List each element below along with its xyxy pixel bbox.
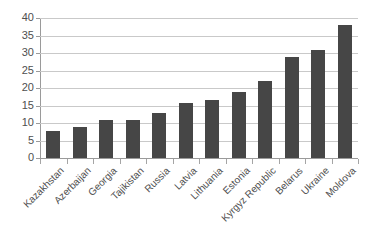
bars-series — [40, 18, 358, 158]
x-axis-category-label-wrap: Georgia — [111, 165, 119, 173]
y-axis-tick-label: 40 — [2, 12, 34, 23]
bar-chart: 0510152025303540 KazakhstanAzerbaijanGeo… — [0, 0, 365, 241]
bar — [46, 131, 60, 158]
bar-slot — [199, 18, 226, 158]
x-axis-category-label-wrap: Azerbaijan — [85, 165, 93, 173]
x-axis-category-label-wrap: Russia — [164, 165, 172, 173]
bar-slot — [226, 18, 253, 158]
x-axis-category-label-wrap: Kyrgyz Republic — [270, 165, 278, 173]
y-axis-tick-label: 25 — [2, 65, 34, 76]
bar-slot — [67, 18, 94, 158]
bar-slot — [146, 18, 173, 158]
x-axis-tickmark — [173, 159, 174, 164]
x-axis-category-label-wrap: Moldova — [350, 165, 358, 173]
bar — [126, 120, 140, 158]
bar — [99, 120, 113, 158]
bar — [232, 92, 246, 158]
y-axis-tick-label: 10 — [2, 117, 34, 128]
y-axis-tick-labels: 0510152025303540 — [0, 18, 34, 158]
bar — [338, 25, 352, 158]
bar-slot — [120, 18, 147, 158]
bar — [258, 81, 272, 158]
bar — [73, 127, 87, 158]
bar — [179, 103, 193, 158]
bar — [205, 100, 219, 158]
x-axis-category-label-wrap: Latvia — [191, 165, 199, 173]
x-axis-tickmark — [93, 159, 94, 164]
x-axis-tickmark — [67, 159, 68, 164]
y-axis-tick-label: 5 — [2, 135, 34, 146]
bar-slot — [40, 18, 67, 158]
x-axis-tickmark — [40, 159, 41, 164]
y-axis-tick-label: 20 — [2, 82, 34, 93]
bar-slot — [279, 18, 306, 158]
x-axis-tickmark — [226, 159, 227, 164]
x-axis-tickmark — [332, 159, 333, 164]
x-axis-category-label-wrap: Belarus — [297, 165, 305, 173]
bar — [311, 50, 325, 159]
x-axis-category-label-wrap: Tajikistan — [138, 165, 146, 173]
bar-slot — [332, 18, 359, 158]
x-axis-category-labels: KazakhstanAzerbaijanGeorgiaTajikistanRus… — [40, 165, 358, 241]
y-axis-tick-label: 30 — [2, 47, 34, 58]
bar-slot — [93, 18, 120, 158]
x-axis-category-label-wrap: Kazakhstan — [58, 165, 66, 173]
bar — [285, 57, 299, 159]
x-axis-tickmark — [358, 159, 359, 164]
x-axis-tickmark — [252, 159, 253, 164]
x-axis-category-label-wrap: Ukraine — [323, 165, 331, 173]
x-axis-tickmark — [120, 159, 121, 164]
y-axis-tick-label: 0 — [2, 152, 34, 163]
x-axis-category-label-wrap: Lithuania — [217, 165, 225, 173]
bar — [152, 113, 166, 158]
x-axis-tickmark — [279, 159, 280, 164]
x-axis-tickmark — [146, 159, 147, 164]
bar-slot — [305, 18, 332, 158]
x-axis-tickmark — [199, 159, 200, 164]
y-axis-tick-label: 15 — [2, 100, 34, 111]
x-axis-category-label: Belarus — [273, 165, 305, 197]
bar-slot — [252, 18, 279, 158]
x-axis-category-label-wrap: Estonia — [244, 165, 252, 173]
y-axis-tick-label: 35 — [2, 30, 34, 41]
bar-slot — [173, 18, 200, 158]
x-axis-category-label: Russia — [143, 165, 172, 194]
x-axis-tickmark — [305, 159, 306, 164]
